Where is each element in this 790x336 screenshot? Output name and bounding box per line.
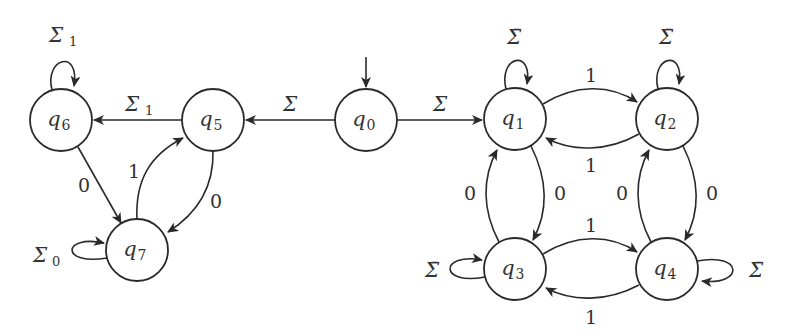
loop-q6: Σ 1 — [48, 23, 77, 90]
loop-q4: Σ̄ — [697, 258, 764, 282]
svg-text:q: q — [199, 107, 212, 131]
svg-text:5: 5 — [214, 117, 223, 133]
svg-text:Σ̄: Σ̄ — [424, 258, 440, 282]
svg-text:7: 7 — [138, 247, 147, 263]
svg-text:4: 4 — [668, 266, 677, 282]
state-q4: q 4 — [636, 238, 698, 300]
transition-q0-q5: Σ — [246, 92, 335, 120]
svg-text:Σ̄: Σ̄ — [658, 25, 674, 49]
transition-q4-q3: 1 — [546, 285, 639, 328]
svg-text:q: q — [123, 237, 136, 261]
svg-text:0: 0 — [464, 182, 476, 204]
svg-text:Σ: Σ — [432, 92, 448, 116]
svg-text:Σ: Σ — [32, 243, 48, 267]
transition-q3-q1: 0 — [464, 150, 499, 242]
svg-text:q: q — [352, 107, 365, 131]
loop-q2: Σ̄ — [657, 25, 680, 89]
loop-q7: Σ 0 — [32, 241, 107, 269]
loop-q1: Σ̄ — [505, 25, 528, 89]
svg-text:1: 1 — [585, 64, 597, 86]
svg-text:Σ̄: Σ̄ — [748, 258, 764, 282]
svg-text:0: 0 — [210, 190, 222, 212]
transition-q2-q4: 0 — [683, 146, 718, 240]
state-q2: q 2 — [636, 88, 698, 150]
state-q0: q 0 — [335, 89, 397, 151]
svg-text:Σ: Σ — [48, 23, 64, 47]
state-q3: q 3 — [484, 238, 546, 300]
transition-q5-q7: 0 — [168, 151, 222, 232]
transition-q1-q3: 0 — [531, 146, 566, 240]
transition-q1-q2: 1 — [543, 64, 637, 104]
svg-text:1: 1 — [145, 103, 153, 118]
state-q7: q 7 — [106, 219, 168, 281]
automaton-diagram: Σ Σ Σ 1 Σ 1 0 1 0 Σ 0 Σ̄ — [0, 0, 790, 336]
loop-q3: Σ̄ — [424, 258, 485, 282]
transition-q6-q7: 0 — [78, 147, 121, 223]
svg-text:Σ̄: Σ̄ — [506, 25, 522, 49]
svg-text:1: 1 — [585, 306, 597, 328]
svg-text:1: 1 — [585, 214, 597, 236]
svg-text:1: 1 — [128, 160, 140, 182]
state-q5: q 5 — [182, 89, 244, 151]
svg-text:q: q — [501, 106, 514, 130]
svg-text:2: 2 — [668, 116, 677, 132]
svg-text:Σ: Σ — [282, 92, 298, 116]
transition-q7-q5: 1 — [128, 138, 183, 220]
transition-q3-q4: 1 — [543, 214, 637, 254]
svg-text:q: q — [653, 106, 666, 130]
svg-text:0: 0 — [52, 254, 60, 269]
transition-q5-q6: Σ 1 — [94, 92, 182, 120]
svg-text:3: 3 — [516, 266, 525, 282]
svg-text:q: q — [653, 256, 666, 280]
state-q1: q 1 — [484, 88, 546, 150]
svg-text:1: 1 — [69, 34, 77, 49]
transition-q0-q1: Σ — [397, 92, 482, 120]
svg-text:0: 0 — [78, 174, 90, 196]
svg-text:6: 6 — [62, 117, 71, 133]
svg-text:1: 1 — [516, 116, 525, 132]
svg-text:0: 0 — [554, 182, 566, 204]
svg-text:0: 0 — [616, 182, 628, 204]
svg-text:Σ: Σ — [124, 92, 140, 116]
state-q6: q 6 — [30, 89, 92, 151]
svg-text:q: q — [501, 256, 514, 280]
svg-text:0: 0 — [367, 117, 376, 133]
transition-q4-q2: 0 — [616, 150, 651, 242]
svg-text:q: q — [47, 107, 60, 131]
svg-text:0: 0 — [706, 182, 718, 204]
transition-q2-q1: 1 — [546, 134, 639, 176]
svg-text:1: 1 — [585, 154, 597, 176]
